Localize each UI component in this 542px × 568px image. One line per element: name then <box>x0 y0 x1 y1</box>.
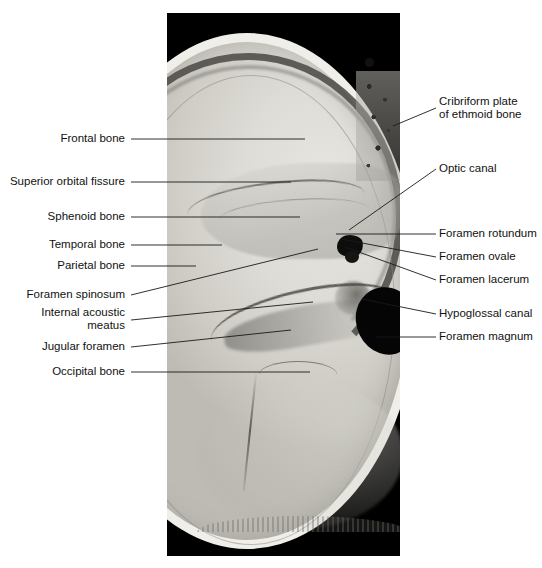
label-cribriform-plate-of-ethmoid-bone: Cribriform plate of ethmoid bone <box>439 95 521 121</box>
label-foramen-spinosum: Foramen spinosum <box>27 288 125 301</box>
label-sphenoid-bone: Sphenoid bone <box>48 210 125 223</box>
label-frontal-bone-text: Frontal bone <box>60 132 125 145</box>
label-foramen-magnum-text: Foramen magnum <box>439 330 533 343</box>
label-optic-canal-text: Optic canal <box>439 162 497 175</box>
label-foramen-rotundum-text: Foramen rotundum <box>439 227 537 240</box>
specimen-layers <box>167 13 400 556</box>
vault-emissary-foramen <box>365 58 374 67</box>
cribriform-plate-texture <box>356 71 400 181</box>
anatomy-figure: Frontal bone Superior orbital fissure Sp… <box>0 0 542 568</box>
label-optic-canal: Optic canal <box>439 162 497 175</box>
label-internal-acoustic-meatus-line1: Internal acoustic <box>41 306 125 319</box>
label-occipital-bone-text: Occipital bone <box>52 365 125 378</box>
label-superior-orbital-fissure: Superior orbital fissure <box>10 175 125 188</box>
label-jugular-foramen-text: Jugular foramen <box>42 340 125 353</box>
label-frontal-bone: Frontal bone <box>60 132 125 145</box>
label-foramen-lacerum-text: Foramen lacerum <box>439 273 529 286</box>
label-cribriform-plate-line2: of ethmoid bone <box>439 108 521 121</box>
label-foramen-ovale: Foramen ovale <box>439 250 516 263</box>
label-hypoglossal-canal-text: Hypoglossal canal <box>439 307 532 320</box>
label-foramen-magnum: Foramen magnum <box>439 330 533 343</box>
foramen-ovale-aperture <box>345 251 359 263</box>
skull-specimen-photo <box>167 13 400 556</box>
label-hypoglossal-canal: Hypoglossal canal <box>439 307 532 320</box>
label-sphenoid-bone-text: Sphenoid bone <box>48 210 125 223</box>
label-foramen-spinosum-text: Foramen spinosum <box>27 288 125 301</box>
label-occipital-bone: Occipital bone <box>52 365 125 378</box>
label-foramen-rotundum: Foramen rotundum <box>439 227 537 240</box>
label-parietal-bone-text: Parietal bone <box>57 259 125 272</box>
label-parietal-bone: Parietal bone <box>57 259 125 272</box>
label-cribriform-plate-line1: Cribriform plate <box>439 95 521 108</box>
label-internal-acoustic-meatus-line2: meatus <box>41 319 125 332</box>
label-jugular-foramen: Jugular foramen <box>42 340 125 353</box>
label-temporal-bone-text: Temporal bone <box>49 238 125 251</box>
label-superior-orbital-fissure-text: Superior orbital fissure <box>10 175 125 188</box>
posterior-cranial-fossa <box>197 379 400 529</box>
label-internal-acoustic-meatus: Internal acoustic meatus <box>41 306 125 332</box>
occipital-suture-arc <box>259 361 337 388</box>
label-foramen-lacerum: Foramen lacerum <box>439 273 529 286</box>
label-temporal-bone: Temporal bone <box>49 238 125 251</box>
label-foramen-ovale-text: Foramen ovale <box>439 250 516 263</box>
